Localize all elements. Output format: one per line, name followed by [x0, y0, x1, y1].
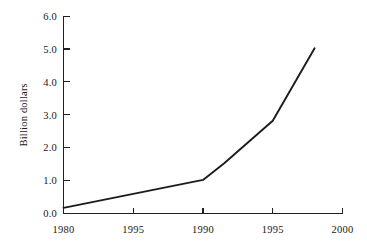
- line-chart-canvas: 0.0 1.0 2.0 3.0 4.0 5.0 6.0 1980 1995 19…: [0, 0, 367, 249]
- x-tick-label-0: 1980: [53, 224, 75, 235]
- y-tick-label-4: 4.0: [43, 77, 57, 88]
- y-tick-label-1: 1.0: [43, 175, 57, 186]
- y-tick-label-6: 6.0: [43, 11, 57, 22]
- x-tick-marks: [64, 208, 343, 214]
- y-tick-label-5: 5.0: [43, 44, 57, 55]
- y-tick-label-2: 2.0: [43, 142, 57, 153]
- x-tick-label-4: 2000: [332, 224, 354, 235]
- chart-figure: 0.0 1.0 2.0 3.0 4.0 5.0 6.0 1980 1995 19…: [0, 0, 367, 249]
- data-series-line: [64, 48, 315, 208]
- y-axis-title: Billion dollars: [18, 83, 29, 146]
- y-tick-marks: [64, 16, 70, 213]
- x-tick-label-1: 1995: [122, 224, 144, 235]
- x-tick-label-2: 1990: [192, 224, 214, 235]
- y-tick-label-0: 0.0: [43, 208, 57, 219]
- y-tick-label-3: 3.0: [43, 110, 57, 121]
- x-tick-label-3: 1995: [262, 224, 284, 235]
